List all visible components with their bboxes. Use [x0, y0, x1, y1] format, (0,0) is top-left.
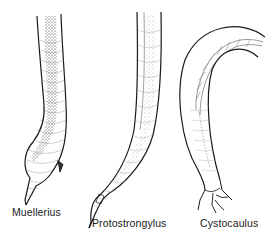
muellerius-drawing: [25, 14, 66, 205]
label-protostrongylus: Protostrongylus: [92, 217, 166, 229]
nematode-tails-figure: Muellerius Protostrongylus Cystocaulus: [0, 0, 279, 245]
cystocaulus-drawing: [180, 27, 265, 213]
protostrongylus-drawing: [89, 12, 161, 228]
label-cystocaulus: Cystocaulus: [200, 217, 258, 229]
label-muellerius: Muellerius: [12, 206, 61, 218]
